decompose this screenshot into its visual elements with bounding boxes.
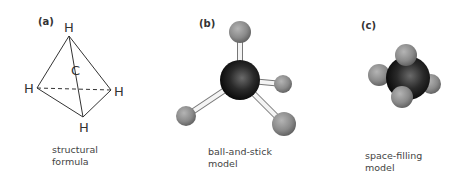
- panel-a-label: (a): [38, 16, 54, 27]
- caption-a-line1: structural: [52, 144, 98, 155]
- atom-h-left: H: [24, 81, 34, 96]
- panel-b-label: (b): [199, 18, 215, 29]
- panel-c-label: (c): [361, 20, 376, 31]
- atom-c-center: C: [71, 63, 80, 78]
- caption-c-line2: model: [365, 162, 395, 173]
- panel-b-ball-and-stick: (b) ball-and-stick model: [176, 18, 296, 169]
- atom-h-right: H: [114, 84, 124, 99]
- methane-models-figure: (a) H C H H H structural formula (b): [0, 0, 466, 188]
- caption-a-line2: formula: [52, 156, 89, 167]
- panel-c-space-filling: (c) space-filling model: [361, 20, 441, 173]
- hydrogen-sphere-bottom: [391, 86, 413, 108]
- hydrogen-atom-top: [229, 21, 251, 43]
- caption-b-line2: model: [208, 158, 238, 169]
- hydrogen-atom-front: [272, 112, 296, 136]
- caption-c-line1: space-filling: [365, 150, 422, 161]
- atom-h-top: H: [64, 20, 74, 35]
- hydrogen-atom-left: [176, 106, 196, 126]
- hydrogen-atom-right: [274, 75, 292, 93]
- atom-h-bottom: H: [79, 120, 89, 135]
- caption-b-line1: ball-and-stick: [208, 146, 272, 157]
- panel-a-structural-formula: (a) H C H H H structural formula: [24, 16, 124, 167]
- hydrogen-sphere-top: [395, 44, 417, 66]
- carbon-atom: [220, 60, 260, 100]
